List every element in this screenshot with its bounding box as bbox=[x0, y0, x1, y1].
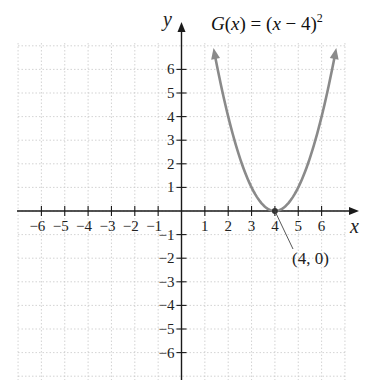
vertex-label: (4, 0) bbox=[292, 249, 329, 268]
y-axis-label: y bbox=[161, 8, 172, 31]
chart: −6−5−4−3−2−1123456654321−1−2−3−4−5−6 (4,… bbox=[0, 0, 367, 380]
curve-arrow-icon bbox=[211, 48, 220, 60]
y-tick-label: −1 bbox=[159, 227, 175, 243]
x-tick-label: −3 bbox=[99, 218, 115, 234]
x-tick-label: 1 bbox=[201, 218, 209, 234]
x-tick-label: 3 bbox=[248, 218, 256, 234]
x-tick-label: −4 bbox=[76, 218, 92, 234]
x-tick-label: −5 bbox=[53, 218, 69, 234]
axes bbox=[17, 22, 359, 380]
y-tick-label: −6 bbox=[159, 345, 175, 361]
x-tick-label: 5 bbox=[295, 218, 303, 234]
y-tick-label: −3 bbox=[159, 274, 175, 290]
x-axis-arrow-icon bbox=[349, 207, 359, 215]
chart-title: G(x) = (x − 4)2 bbox=[211, 11, 323, 35]
x-tick-label: 4 bbox=[271, 218, 279, 234]
y-tick-label: 3 bbox=[167, 132, 175, 148]
y-tick-label: −2 bbox=[159, 250, 175, 266]
y-tick-label: −5 bbox=[159, 321, 175, 337]
y-tick-label: 1 bbox=[167, 179, 175, 195]
vertex-annotation: (4, 0) bbox=[272, 208, 329, 268]
x-tick-label: −2 bbox=[123, 218, 139, 234]
curve-arrow-icon bbox=[330, 48, 339, 60]
y-tick-label: 4 bbox=[167, 109, 175, 125]
y-tick-label: 5 bbox=[167, 85, 175, 101]
y-axis-arrow-icon bbox=[178, 22, 186, 32]
x-tick-label: −6 bbox=[29, 218, 45, 234]
y-tick-label: 6 bbox=[167, 61, 175, 77]
x-axis-label: x bbox=[349, 215, 359, 237]
y-tick-label: 2 bbox=[167, 156, 175, 172]
x-tick-label: 6 bbox=[318, 218, 326, 234]
x-tick-label: 2 bbox=[224, 218, 232, 234]
y-tick-label: −4 bbox=[159, 297, 175, 313]
